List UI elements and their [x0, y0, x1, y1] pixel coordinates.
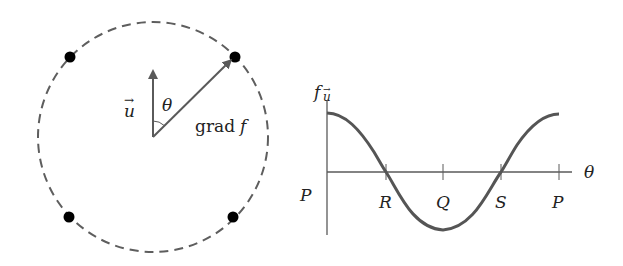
tick-label-s: S: [495, 192, 507, 212]
tick-label-p-end: P: [551, 192, 564, 212]
grad-label: grad: [195, 116, 235, 136]
grad-f-label: f: [238, 116, 249, 136]
y-axis-label-sub-arrow: →: [323, 84, 331, 94]
y-axis-label-f: f: [312, 82, 323, 102]
origin-label-p: P: [299, 185, 312, 205]
tick-label-r: R: [378, 192, 392, 212]
tick-label-q: Q: [436, 192, 450, 212]
diagram-canvas: u → θ grad f f u → θ P R Q S P: [0, 0, 623, 266]
point-bottom-left: [64, 212, 75, 223]
u-vector-label-arrow: →: [124, 93, 134, 107]
left-figure: u → θ grad f: [38, 22, 268, 252]
point-top-left: [65, 52, 76, 63]
right-figure: f u → θ P R Q S P: [299, 82, 594, 235]
point-top-right: [230, 52, 241, 63]
point-bottom-right: [228, 212, 239, 223]
theta-angle-label: θ: [162, 95, 172, 115]
x-axis-label-theta: θ: [584, 162, 594, 182]
angle-arc: [153, 121, 164, 126]
